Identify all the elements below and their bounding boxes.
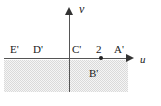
u-axis-line — [4, 58, 130, 59]
label-B-prime: B' — [89, 68, 98, 79]
v-axis-line — [69, 14, 70, 92]
tick-label-2: 2 — [96, 44, 102, 55]
v-axis-label: ν — [79, 4, 84, 15]
shaded-lower-half-plane-region — [4, 60, 128, 92]
u-axis-label: u — [140, 54, 146, 65]
label-A-prime: A' — [114, 44, 124, 55]
figure-canvas: E' D' C' 2 A' B' u ν — [0, 0, 161, 106]
label-D-prime: D' — [33, 44, 43, 55]
point-marker-at-2 — [99, 56, 103, 60]
label-C-prime: C' — [72, 44, 81, 55]
label-E-prime: E' — [10, 44, 19, 55]
v-axis-arrow-icon — [65, 7, 73, 15]
u-axis-arrow-icon — [126, 54, 134, 62]
